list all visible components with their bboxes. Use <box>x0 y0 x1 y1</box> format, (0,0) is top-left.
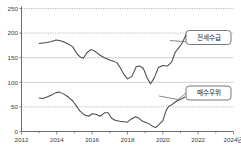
y-tick-label-100: 100 <box>8 79 19 86</box>
y-tick-label-150: 150 <box>8 54 19 61</box>
x-tick-label-2014: 2014 <box>50 136 64 143</box>
x-tick-label-2020: 2020 <box>156 136 170 143</box>
x-tick-label-2018: 2018 <box>121 136 135 143</box>
series-line-jeonse-supply <box>39 35 186 84</box>
x-tick-label-2024: 2024년 <box>224 136 241 143</box>
x-tick-label-2022: 2022 <box>191 136 205 143</box>
y-tick-label-200: 200 <box>8 29 19 36</box>
callout-buyer-advantage-label: 매수우위 <box>197 89 221 97</box>
chart-container: 0501001502002502012201420162018202020222… <box>0 0 241 151</box>
y-tick-label-0: 0 <box>14 128 18 135</box>
series-line-buyer-advantage <box>39 92 185 127</box>
x-tick-label-2012: 2012 <box>15 136 29 143</box>
line-chart: 0501001502002502012201420162018202020222… <box>0 0 241 151</box>
callout-jeonse-supply-label: 전세수급 <box>197 33 221 42</box>
y-tick-label-250: 250 <box>8 5 19 12</box>
y-tick-label-50: 50 <box>11 103 18 110</box>
x-tick-label-2016: 2016 <box>85 136 99 143</box>
